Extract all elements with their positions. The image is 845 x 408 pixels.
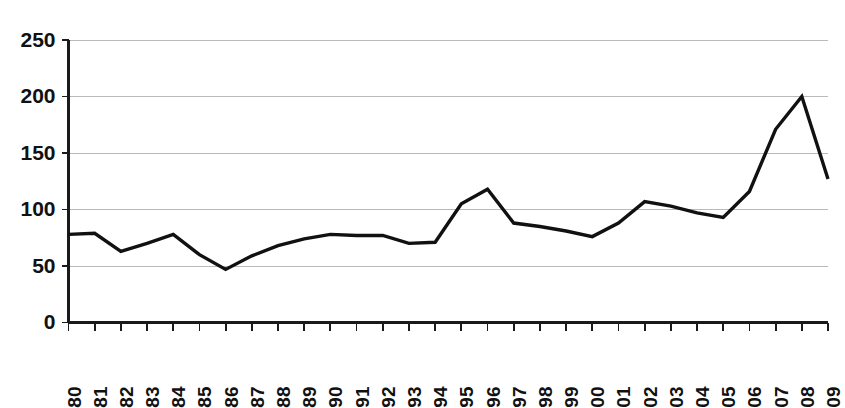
line-chart: 050100150200250 198019811982198319841985… bbox=[0, 0, 845, 408]
series-line-1 bbox=[69, 97, 829, 270]
y-tick-label: 150 bbox=[20, 141, 55, 164]
y-tick-label: 0 bbox=[44, 310, 56, 333]
caption-sliver bbox=[0, 400, 845, 408]
gridlines-group bbox=[69, 40, 829, 266]
y-tick-label: 250 bbox=[20, 28, 55, 51]
chart-figure: 050100150200250 198019811982198319841985… bbox=[0, 0, 845, 408]
y-tick-label: 200 bbox=[20, 84, 55, 107]
y-tick-labels-group: 050100150200250 bbox=[20, 28, 55, 334]
x-tick-marks-group bbox=[69, 323, 829, 331]
y-tick-label: 50 bbox=[32, 254, 55, 277]
axes-group bbox=[69, 40, 829, 323]
y-tick-label: 100 bbox=[20, 197, 55, 220]
data-series-group bbox=[69, 97, 829, 270]
